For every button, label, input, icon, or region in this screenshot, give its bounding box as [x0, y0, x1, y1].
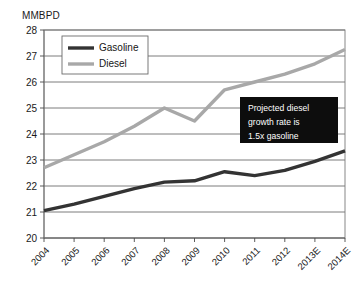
y-tickmarks-group: [40, 30, 44, 238]
x-tick-label: 2013E: [295, 245, 322, 272]
x-tick-label: 2009: [179, 245, 202, 268]
x-tick-label: 2007: [119, 245, 142, 268]
x-tick-label: 2006: [89, 245, 112, 268]
x-tick-label: 2005: [59, 245, 82, 268]
callout-line: Projected diesel: [248, 103, 309, 113]
legend: Gasoline Diesel: [62, 36, 148, 74]
y-tick-label: 24: [26, 129, 38, 140]
y-tick-label: 23: [26, 155, 38, 166]
y-tick-label: 20: [26, 233, 38, 244]
x-tick-label: 2008: [149, 245, 172, 268]
x-tick-label: 2004: [29, 245, 52, 268]
x-tick-label: 2011: [240, 245, 262, 267]
legend-label-gasoline: Gasoline: [99, 42, 139, 53]
y-tick-label: 27: [26, 51, 38, 62]
x-tick-label: 2014E: [325, 245, 352, 272]
legend-label-diesel: Diesel: [99, 58, 127, 69]
chart-container: MMBPD: [0, 0, 364, 291]
callout-line: 1.5x gasoline: [248, 131, 299, 141]
x-tick-labels-group: 2004200520062007200820092010201120122013…: [29, 245, 353, 272]
projection-callout: Projected diesel growth rate is 1.5x gas…: [240, 97, 338, 143]
callout-line: growth rate is: [248, 117, 300, 127]
x-tickmarks-group: [44, 238, 345, 242]
y-tick-labels-group: 28 27 26 25 24 23 22 21 20: [26, 25, 38, 244]
x-tick-label: 2012: [269, 245, 292, 268]
chart-svg: 28 27 26 25 24 23 22 21 20 2004200520062…: [0, 0, 364, 291]
x-tick-label: 2010: [209, 245, 232, 268]
y-tick-label: 25: [26, 103, 38, 114]
y-tick-label: 28: [26, 25, 38, 36]
y-tick-label: 26: [26, 77, 38, 88]
y-tick-label: 22: [26, 181, 38, 192]
y-tick-label: 21: [26, 207, 38, 218]
